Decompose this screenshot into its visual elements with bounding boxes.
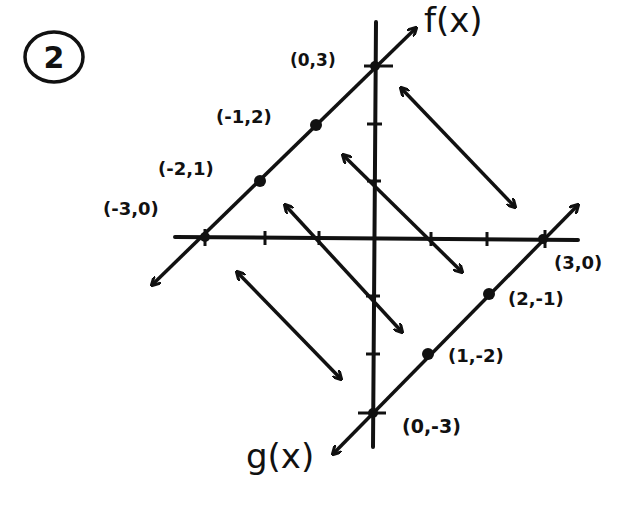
point-label-3-0: (3,0) bbox=[554, 252, 602, 273]
point-label-m2-1: (-2,1) bbox=[158, 158, 214, 179]
point-label-m3-0: (-3,0) bbox=[103, 198, 159, 219]
shift-arrow-3 bbox=[285, 205, 402, 332]
shift-arrow-2 bbox=[343, 155, 462, 272]
graph-canvas: 2 bbox=[0, 0, 632, 508]
problem-number: 2 bbox=[44, 40, 65, 75]
point-label-0-3: (0,3) bbox=[290, 50, 336, 70]
shift-arrow-1 bbox=[401, 88, 515, 207]
problem-number-badge: 2 bbox=[25, 32, 83, 82]
point-label-1-m2: (1,-2) bbox=[448, 345, 504, 366]
point-label-0-m3: (0,-3) bbox=[402, 415, 461, 437]
shift-arrow-4 bbox=[237, 272, 341, 379]
x-axis bbox=[175, 237, 578, 240]
y-axis bbox=[373, 22, 376, 447]
point-label-2-m1: (2,-1) bbox=[508, 288, 564, 309]
g-label: g(x) bbox=[246, 436, 314, 476]
f-label: f(x) bbox=[424, 0, 483, 40]
point-label-m1-2: (-1,2) bbox=[216, 106, 272, 127]
